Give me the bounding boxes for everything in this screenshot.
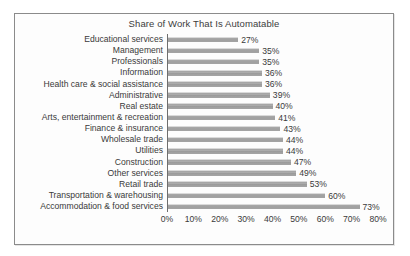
value-label: 60% <box>325 190 345 201</box>
category-label: Health care & social assistance <box>15 79 167 90</box>
bar-zone: 36% <box>167 79 393 90</box>
x-tick-label: 10% <box>185 214 202 224</box>
bar <box>167 149 283 154</box>
category-axis-line <box>167 34 168 212</box>
value-label: 36% <box>262 67 282 78</box>
value-label: 73% <box>360 201 380 212</box>
x-tick-label: 30% <box>238 214 255 224</box>
bar <box>167 182 307 187</box>
bar-row: Finance & insurance43% <box>15 123 393 134</box>
bar-row: Accommodation & food services73% <box>15 201 393 212</box>
category-label: Other services <box>15 168 167 179</box>
bar <box>167 204 360 209</box>
value-label: 36% <box>262 79 282 90</box>
bar-row: Retail trade53% <box>15 179 393 190</box>
value-label: 44% <box>283 145 303 156</box>
x-tick-label: 80% <box>369 214 386 224</box>
value-label: 53% <box>307 179 327 190</box>
bar-row: Construction47% <box>15 157 393 168</box>
x-tick-label: 50% <box>290 214 307 224</box>
bar <box>167 37 238 42</box>
bar <box>167 193 325 198</box>
x-tick-label: 70% <box>343 214 360 224</box>
bar <box>167 104 273 109</box>
bar-zone: 39% <box>167 90 393 101</box>
bar <box>167 126 280 131</box>
bar-zone: 41% <box>167 112 393 123</box>
bar-zone: 49% <box>167 168 393 179</box>
bar-row: Arts, entertainment & recreation41% <box>15 112 393 123</box>
bar-zone: 44% <box>167 145 393 156</box>
bar-zone: 35% <box>167 56 393 67</box>
category-label: Real estate <box>15 101 167 112</box>
value-label: 39% <box>270 90 290 101</box>
category-label: Construction <box>15 157 167 168</box>
value-label: 44% <box>283 134 303 145</box>
category-label: Educational services <box>15 34 167 45</box>
bar <box>167 48 259 53</box>
bar-zone: 60% <box>167 190 393 201</box>
x-tick-label: 20% <box>211 214 228 224</box>
category-label: Administrative <box>15 90 167 101</box>
category-label: Accommodation & food services <box>15 201 167 212</box>
bar <box>167 138 283 143</box>
value-label: 43% <box>280 123 300 134</box>
chart-title: Share of Work That Is Automatable <box>15 18 393 29</box>
bar <box>167 93 270 98</box>
bar-zone: 40% <box>167 101 393 112</box>
category-label: Professionals <box>15 56 167 67</box>
bar-row: Wholesale trade44% <box>15 134 393 145</box>
bar-zone: 35% <box>167 45 393 56</box>
value-label: 47% <box>291 157 311 168</box>
bar-row: Management35% <box>15 45 393 56</box>
bar <box>167 115 275 120</box>
bar-row: Transportation & warehousing60% <box>15 190 393 201</box>
bar <box>167 160 291 165</box>
category-label: Finance & insurance <box>15 123 167 134</box>
value-label: 40% <box>273 101 293 112</box>
bar-rows: Educational services27%Management35%Prof… <box>15 34 393 212</box>
bar-zone: 43% <box>167 123 393 134</box>
category-label: Information <box>15 67 167 78</box>
category-label: Utilities <box>15 145 167 156</box>
category-label: Transportation & warehousing <box>15 190 167 201</box>
bar-zone: 47% <box>167 157 393 168</box>
bar-zone: 53% <box>167 179 393 190</box>
bar-row: Educational services27% <box>15 34 393 45</box>
chart-frame: Share of Work That Is Automatable Educat… <box>14 13 394 245</box>
bar-row: Administrative39% <box>15 90 393 101</box>
x-tick-label: 0% <box>161 214 173 224</box>
bar-row: Utilities44% <box>15 145 393 156</box>
bar <box>167 71 262 76</box>
bar-row: Health care & social assistance36% <box>15 79 393 90</box>
bar-row: Information36% <box>15 67 393 78</box>
bar-zone: 27% <box>167 34 393 45</box>
value-label: 41% <box>275 112 295 123</box>
bar-zone: 73% <box>167 201 393 212</box>
value-label: 49% <box>296 168 316 179</box>
bar-zone: 44% <box>167 134 393 145</box>
plot-area: Educational services27%Management35%Prof… <box>15 34 393 244</box>
category-label: Arts, entertainment & recreation <box>15 112 167 123</box>
bar-row: Professionals35% <box>15 56 393 67</box>
category-label: Management <box>15 45 167 56</box>
value-label: 27% <box>238 34 258 45</box>
bar <box>167 171 296 176</box>
value-label: 35% <box>259 45 279 56</box>
value-label: 35% <box>259 56 279 67</box>
x-tick-label: 40% <box>264 214 281 224</box>
category-label: Wholesale trade <box>15 134 167 145</box>
x-axis-tick-labels: 0%10%20%30%40%50%60%70%80% <box>15 213 393 227</box>
category-label: Retail trade <box>15 179 167 190</box>
bar-zone: 36% <box>167 67 393 78</box>
x-tick-label: 60% <box>317 214 334 224</box>
bar-row: Real estate40% <box>15 101 393 112</box>
bar-row: Other services49% <box>15 168 393 179</box>
bar <box>167 60 259 65</box>
bar <box>167 82 262 87</box>
